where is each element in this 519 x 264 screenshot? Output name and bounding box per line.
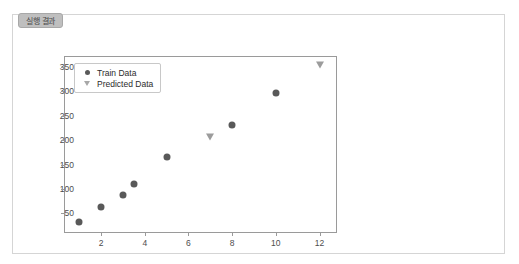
y-axis-tick-mark	[61, 116, 64, 117]
x-axis-tick-mark	[232, 233, 233, 236]
y-axis-tick-label: 150	[46, 160, 74, 170]
data-point-triangle-down	[316, 62, 324, 69]
data-point-circle	[119, 192, 126, 199]
x-axis-tick-label: 10	[271, 238, 280, 248]
y-axis-tick-mark	[61, 91, 64, 92]
y-axis-tick-mark	[61, 165, 64, 166]
x-axis-tick-mark	[145, 233, 146, 236]
legend-label: Train Data	[97, 68, 136, 78]
data-point-circle	[130, 181, 137, 188]
x-axis-tick-label: 12	[315, 238, 324, 248]
result-panel: 5010015020025030035024681012 Train DataP…	[12, 14, 505, 254]
y-axis-tick-mark	[61, 140, 64, 141]
y-axis-tick-label: 100	[46, 184, 74, 194]
data-point-circle	[229, 122, 236, 129]
y-axis-tick-label: 250	[46, 111, 74, 121]
y-axis-tick-label: 350	[46, 62, 74, 72]
x-axis-tick-mark	[101, 233, 102, 236]
x-axis-tick-label: 8	[230, 238, 235, 248]
data-point-circle	[272, 90, 279, 97]
y-axis-tick-label: 200	[46, 135, 74, 145]
tab-execution-result[interactable]: 실행 결과	[18, 13, 63, 28]
x-axis-tick-mark	[320, 233, 321, 236]
y-axis-tick-mark	[61, 67, 64, 68]
x-axis-tick-label: 2	[99, 238, 104, 248]
x-axis-tick-mark	[188, 233, 189, 236]
legend-marker-circle-icon	[79, 70, 95, 75]
legend-marker-triangle-down-icon	[79, 81, 95, 86]
x-axis-tick-mark	[276, 233, 277, 236]
legend-label: Predicted Data	[97, 79, 153, 89]
chart-figure: 5010015020025030035024681012 Train DataP…	[33, 45, 353, 250]
y-axis-tick-mark	[61, 189, 64, 190]
legend-item: Predicted Data	[79, 78, 153, 89]
legend-item: Train Data	[79, 67, 153, 78]
data-point-circle	[76, 218, 83, 225]
y-axis-tick-mark	[61, 213, 64, 214]
chart-legend: Train DataPredicted Data	[74, 63, 161, 93]
data-point-circle	[163, 154, 170, 161]
y-axis-tick-label: 50	[46, 208, 74, 218]
y-axis-tick-label: 300	[46, 86, 74, 96]
x-axis-tick-label: 4	[142, 238, 147, 248]
x-axis-tick-label: 6	[186, 238, 191, 248]
data-point-triangle-down	[206, 133, 214, 140]
data-point-circle	[98, 204, 105, 211]
